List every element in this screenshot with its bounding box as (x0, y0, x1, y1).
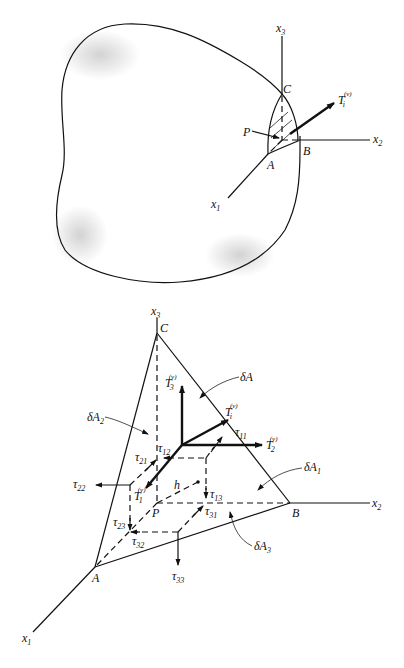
stress-tetrahedron-diagram: x3 x2 x1 C P A B Ti(ν) (0, 0, 404, 668)
point-p-label: P (151, 506, 160, 520)
point-c-label: C (283, 82, 292, 96)
edge-ab (95, 503, 290, 567)
x3-label: x3 (275, 21, 285, 37)
area-dA2-label: δA2 (87, 410, 104, 426)
tau23-label: τ23 (113, 515, 125, 531)
traction-1-label: T1(ν) (134, 486, 146, 505)
x1-label: x1 (210, 197, 220, 213)
traction-2-label: T2(ν) (266, 435, 278, 454)
traction-i-arrow (182, 420, 228, 445)
point-a-label: A (91, 571, 100, 585)
area-dA1-label: δA1 (304, 460, 321, 476)
x2-label: x2 (372, 132, 382, 148)
tau13-label: τ13 (210, 487, 222, 503)
point-b-label: B (292, 506, 300, 520)
tau31-arrow (193, 506, 203, 516)
x3-label: x3 (150, 304, 160, 320)
shading (205, 233, 275, 277)
point-c-label: C (160, 321, 169, 335)
tau32-label: τ32 (132, 534, 144, 550)
tau11-label: τ11 (235, 425, 247, 441)
traction-arrow (290, 103, 334, 134)
area-dA-label: δA (240, 370, 254, 384)
tau12-label: τ12 (158, 441, 170, 457)
tau31-label: τ31 (205, 504, 217, 520)
x1-label: x1 (21, 631, 31, 647)
dA2-pointer (105, 417, 148, 434)
tau33-label: τ33 (172, 569, 184, 585)
x1-axis (33, 567, 95, 632)
point-a-label: A (266, 158, 275, 172)
traction-3-label: T3(ν) (165, 373, 177, 392)
tetrahedron-figure: x3 C x2 x1 P B A h T3(ν) Ti(ν) T2(ν) T1(… (21, 304, 381, 647)
traction-i-label: Ti(ν) (225, 402, 238, 421)
area-dA3-label: δA3 (254, 539, 271, 555)
tau21-label: τ21 (135, 450, 147, 466)
body-figure: x3 x2 x1 C P A B Ti(ν) (52, 21, 382, 283)
h-label: h (174, 478, 180, 492)
shading (52, 205, 108, 265)
point-b-label: B (303, 144, 311, 158)
traction-label: Ti(ν) (338, 90, 352, 109)
patch-outline (268, 94, 298, 154)
tau22-label: τ22 (73, 477, 85, 493)
foot-point (196, 480, 200, 484)
x1-axis (228, 154, 268, 198)
point-p-label: P (242, 125, 251, 139)
x2-label: x2 (371, 496, 381, 512)
